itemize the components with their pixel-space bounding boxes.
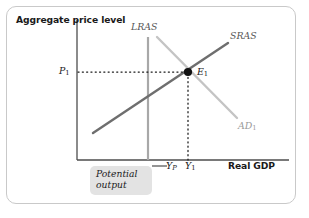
lras-curve-label: LRAS bbox=[131, 22, 157, 33]
ad-as-diagram-figure: Aggregate price level Real GDP LRAS SRAS… bbox=[0, 0, 309, 218]
actual-output-subscript: 1 bbox=[191, 164, 195, 172]
ad-curve-label-base: AD bbox=[238, 120, 252, 131]
potential-output-tick-label: YP bbox=[166, 161, 177, 173]
price-level-subscript: 1 bbox=[65, 69, 69, 77]
actual-output-tick-label: Y1 bbox=[185, 161, 196, 173]
potential-output-callout-line2: output bbox=[96, 180, 147, 191]
plot-canvas bbox=[0, 0, 309, 218]
potential-output-callout: Potential output bbox=[90, 166, 152, 195]
ad-curve-label-subscript: 1 bbox=[252, 124, 256, 132]
potential-output-subscript: P bbox=[172, 164, 177, 172]
y-axis-title: Aggregate price level bbox=[16, 15, 72, 25]
ad-curve-label: AD1 bbox=[238, 121, 257, 133]
equilibrium-point-marker bbox=[184, 68, 192, 76]
x-axis-title: Real GDP bbox=[228, 161, 275, 171]
price-level-tick-label: P1 bbox=[59, 66, 70, 78]
equilibrium-base: E bbox=[197, 66, 204, 77]
equilibrium-subscript: 1 bbox=[204, 70, 208, 78]
equilibrium-point-label: E1 bbox=[197, 67, 208, 79]
sras-curve-label: SRAS bbox=[230, 31, 257, 42]
